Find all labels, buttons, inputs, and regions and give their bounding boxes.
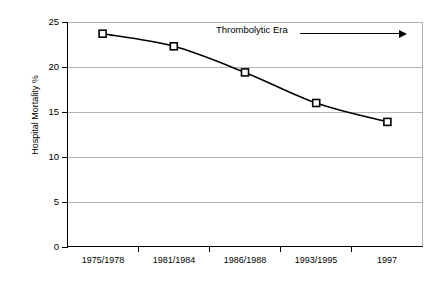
data-series-layer: [0, 0, 441, 295]
series-line: [103, 34, 388, 122]
data-point-marker: [242, 69, 249, 76]
data-point-marker: [99, 30, 106, 37]
arrow-head: [399, 30, 407, 38]
arrow-shaft: [300, 33, 400, 34]
data-point-marker: [384, 118, 391, 125]
data-point-marker: [170, 43, 177, 50]
thrombolytic-era-annotation: Thrombolytic Era: [216, 24, 288, 35]
series-markers: [99, 30, 391, 125]
data-point-marker: [313, 100, 320, 107]
right-arrow-icon: [300, 29, 408, 38]
mortality-trend-chart: Hospital Mortality % 25 20 15 10 5 0 197…: [0, 0, 441, 295]
